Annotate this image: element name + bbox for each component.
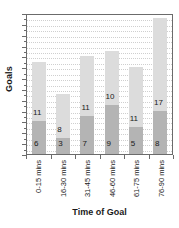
bar-segment-lower-label: 7 [82, 140, 86, 148]
stacked-bar[interactable]: 115 [129, 67, 143, 154]
bar-group[interactable]: 109 [100, 15, 124, 154]
x-axis-tick [149, 155, 150, 159]
x-axis-tick-labels: 0-15 mins16-30 mins31-45 mins46-60 mins6… [26, 160, 173, 206]
bar-group[interactable]: 116 [27, 15, 51, 154]
bar-segment-lower-label: 9 [107, 140, 111, 148]
bar-segment-lower[interactable]: 9 [105, 105, 119, 154]
bar-segment-lower-label: 3 [58, 140, 62, 148]
x-axis-tick [51, 155, 52, 159]
x-axis-label-cell: 61-75 mins [124, 160, 149, 206]
bar-segment-upper-label: 11 [81, 104, 89, 112]
x-axis-label-cell: 0-15 mins [26, 160, 51, 206]
bar-series-container: 11683117109115178 [27, 15, 172, 154]
x-axis-label: 0-15 mins [34, 160, 43, 193]
bar-segment-lower[interactable]: 6 [32, 121, 46, 154]
x-axis-tick [173, 155, 174, 159]
bar-segment-upper-label: 8 [57, 126, 61, 134]
bar-group[interactable]: 117 [75, 15, 99, 154]
x-axis-label: 16-30 mins [58, 160, 67, 197]
bar-segment-lower[interactable]: 7 [80, 116, 94, 154]
bar-segment-lower-label: 8 [155, 140, 159, 148]
bar-segment-upper-label: 17 [154, 99, 163, 107]
x-axis-label: 31-45 mins [83, 160, 92, 197]
x-axis-label-cell: 46-60 mins [100, 160, 125, 206]
plot-area: 11683117109115178 [26, 14, 173, 155]
x-axis-label: 46-60 mins [107, 160, 116, 197]
stacked-bar[interactable]: 178 [153, 18, 167, 154]
x-axis-tick [100, 155, 101, 159]
x-axis-tick [75, 155, 76, 159]
bar-segment-lower[interactable]: 3 [56, 138, 70, 154]
bar-chart-figure: Goals 11683117109115178 0-15 mins16-30 m… [0, 0, 179, 228]
bar-segment-lower[interactable]: 5 [129, 127, 143, 154]
bar-segment-lower-label: 5 [131, 140, 135, 148]
bar-segment-lower-label: 6 [34, 140, 38, 148]
stacked-bar[interactable]: 109 [105, 51, 119, 154]
x-axis-label: 76-90 mins [156, 160, 165, 197]
x-axis-label-cell: 76-90 mins [149, 160, 174, 206]
x-axis-label-cell: 16-30 mins [51, 160, 76, 206]
x-axis-tick [124, 155, 125, 159]
stacked-bar[interactable]: 117 [80, 56, 94, 154]
bar-group[interactable]: 83 [51, 15, 75, 154]
bar-segment-upper-label: 11 [130, 115, 138, 123]
bar-segment-upper[interactable]: 11 [80, 56, 94, 116]
x-axis-title: Time of Goal [26, 207, 173, 217]
bar-group[interactable]: 115 [124, 15, 148, 154]
bar-group[interactable]: 178 [148, 15, 172, 154]
bar-segment-upper-label: 10 [106, 93, 115, 101]
bar-segment-upper[interactable]: 17 [153, 18, 167, 110]
bar-segment-upper[interactable]: 8 [56, 94, 70, 137]
y-axis-title: Goals [2, 0, 16, 158]
stacked-bar[interactable]: 116 [32, 62, 46, 154]
x-axis-label-cell: 31-45 mins [75, 160, 100, 206]
y-axis-title-label: Goals [4, 66, 14, 92]
x-axis-tick [26, 155, 27, 159]
bar-segment-upper[interactable]: 10 [105, 51, 119, 105]
bar-segment-upper[interactable]: 11 [129, 67, 143, 127]
stacked-bar[interactable]: 83 [56, 94, 70, 154]
bar-segment-lower[interactable]: 8 [153, 111, 167, 154]
bar-segment-upper[interactable]: 11 [32, 62, 46, 122]
x-axis-label: 61-75 mins [132, 160, 141, 197]
bar-segment-upper-label: 11 [33, 109, 41, 117]
